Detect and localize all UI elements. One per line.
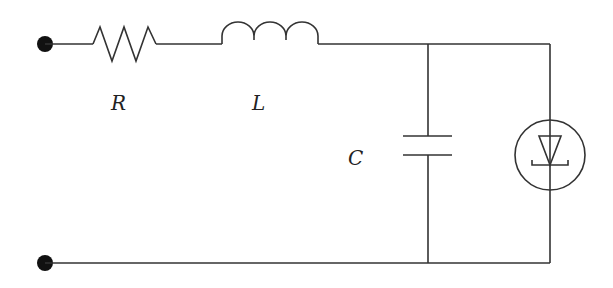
capacitor-label: C: [348, 146, 363, 170]
inductor-icon: [222, 22, 318, 44]
circuit-diagram: [0, 0, 613, 288]
resistor-label: R: [111, 91, 126, 115]
resistor-icon: [93, 27, 156, 61]
diode-in-circle-icon: [515, 120, 585, 190]
inductor-label: L: [252, 91, 265, 115]
